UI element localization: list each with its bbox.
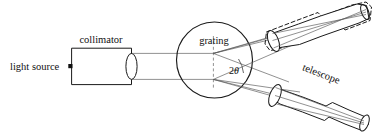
telescope-direct-ghost	[265, 2, 372, 53]
telescope-label-group: telescope	[301, 62, 342, 86]
angle-marker	[239, 59, 244, 73]
light-source-dot	[68, 64, 72, 68]
collimator-lens	[126, 53, 137, 79]
grating-label: grating	[199, 35, 229, 46]
telescope-label: telescope	[301, 62, 342, 86]
spectrometer-illustration: light source collimator grating 2θ teles…	[0, 0, 377, 133]
grating-circle	[177, 22, 253, 98]
angle-symbol: θ	[234, 65, 239, 76]
grating	[177, 22, 253, 98]
collimator-label: collimator	[79, 34, 123, 45]
angle-label: 2θ	[229, 65, 239, 76]
light-source-label: light source	[10, 61, 60, 72]
angle-arc	[239, 59, 244, 73]
collimator	[72, 48, 137, 84]
telescope-diffracted	[266, 83, 371, 132]
spectrometer-diagram: light source collimator grating 2θ teles…	[0, 0, 377, 133]
parallel-beam	[132, 53, 213, 79]
